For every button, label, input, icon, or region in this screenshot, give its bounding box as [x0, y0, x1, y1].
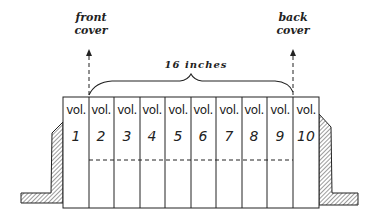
back-cover-arrow [290, 49, 296, 97]
left-bookend [21, 122, 63, 203]
diagram-graphics [0, 0, 380, 220]
front-cover-label-line1: front [74, 11, 107, 24]
volume-number: 5 [174, 128, 183, 144]
volume-word: vol. [142, 103, 162, 117]
volume-number: 6 [199, 128, 208, 144]
volume-number: 3 [123, 128, 132, 144]
volume-word: vol. [219, 103, 239, 117]
volume-number: 2 [97, 128, 106, 144]
measurement-brace [89, 74, 293, 95]
volume-word: vol. [244, 103, 264, 117]
volume-number: 1 [72, 128, 81, 144]
bookshelf-diagram: front cover back cover 16 inches vol. 1 … [0, 0, 380, 220]
back-cover-label-line1: back [276, 11, 309, 24]
volume-number: 9 [276, 128, 285, 144]
volume-word: vol. [117, 103, 137, 117]
volume-word: vol. [168, 103, 188, 117]
volume-number: 7 [225, 128, 234, 144]
back-cover-label-line2: cover [276, 24, 309, 37]
volume-word: vol. [66, 103, 86, 117]
volume-number: 4 [148, 128, 157, 144]
front-cover-label-line2: cover [74, 24, 107, 37]
volume-word: vol. [193, 103, 213, 117]
front-cover-label: front cover [74, 11, 107, 37]
volume-word: vol. [270, 103, 290, 117]
volume-word: vol. [296, 103, 316, 117]
volume-number: 10 [297, 128, 315, 144]
back-cover-label: back cover [276, 11, 309, 37]
front-cover-arrow [86, 49, 92, 97]
volume-number: 8 [250, 128, 259, 144]
measurement-label: 16 inches [165, 59, 228, 70]
volume-word: vol. [91, 103, 111, 117]
right-bookend [319, 114, 358, 205]
